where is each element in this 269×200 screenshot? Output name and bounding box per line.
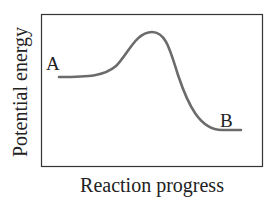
energy-curve <box>59 32 241 130</box>
label-a: A <box>46 53 60 74</box>
energy-diagram: A B Reaction progress Potential energy <box>0 0 269 200</box>
y-axis-label: Potential energy <box>9 27 32 157</box>
label-b: B <box>220 110 233 131</box>
x-axis-label: Reaction progress <box>80 174 224 197</box>
plot-frame <box>42 15 263 167</box>
